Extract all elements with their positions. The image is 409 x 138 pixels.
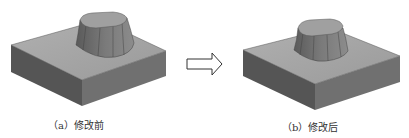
model-after [243, 19, 400, 110]
caption-before: （a）修改前 [48, 117, 104, 132]
model-before [11, 12, 166, 106]
caption-after: （b）修改后 [282, 119, 338, 134]
right-arrow-outline-icon [187, 53, 222, 75]
